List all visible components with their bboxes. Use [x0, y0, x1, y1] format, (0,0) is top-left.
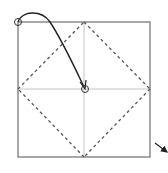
fold-arrow: [18, 13, 84, 87]
diagram-canvas: [0, 0, 168, 173]
fold-line-top-right: [84, 22, 150, 89]
turn-arrow-icon: [155, 143, 167, 152]
fold-line-right-bottom: [84, 89, 150, 157]
origami-diagram: [0, 0, 168, 173]
fold-line-bottom-left: [18, 89, 84, 157]
fold-line-left-top: [18, 22, 84, 89]
